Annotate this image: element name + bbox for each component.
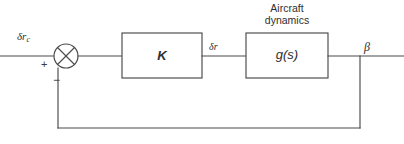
plant-block-label: g(s) (246, 47, 328, 62)
plant-caption-line-2: dynamics (265, 14, 309, 26)
plant-caption-line-1: Aircraft (270, 2, 303, 14)
block-diagram-canvas: δrc + − K δr Aircraftdynamics g(s) β (0, 0, 404, 144)
output-signal-label: β (364, 40, 370, 54)
block-diagram-graphics (0, 0, 404, 144)
input-signal-subscript: c (26, 35, 30, 44)
input-signal-symbol: δr (17, 30, 26, 42)
intermediate-signal-label: δr (209, 41, 218, 53)
input-signal-label: δrc (17, 30, 30, 45)
summing-junction-minus-sign: − (53, 73, 60, 87)
plant-block-caption: Aircraftdynamics (244, 2, 330, 27)
